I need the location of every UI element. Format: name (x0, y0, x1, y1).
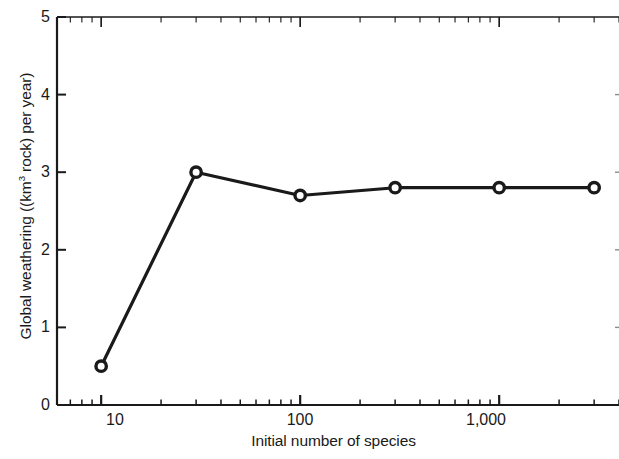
y-axis-ticks (57, 17, 66, 405)
data-point-100-2.7 (295, 190, 305, 200)
data-point-3000-2.8 (589, 183, 599, 193)
weathering-line-chart: Global weathering ((km3 rock) per year) … (0, 0, 619, 459)
data-markers (96, 167, 599, 371)
data-point-300-2.8 (390, 183, 400, 193)
data-point-30-3 (191, 167, 201, 177)
data-point-10-0.5 (96, 361, 106, 371)
plot-area (0, 0, 619, 459)
axis-lines (57, 17, 619, 405)
data-line (101, 172, 594, 366)
x-axis-ticks (57, 17, 619, 405)
right-axis-ticks (615, 95, 619, 328)
data-point-1000-2.8 (494, 183, 504, 193)
